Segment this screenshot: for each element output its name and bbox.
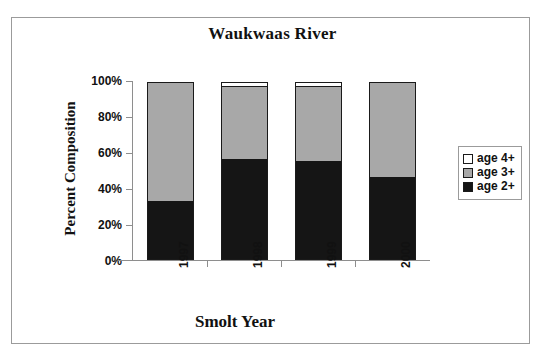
y-tick-label-60: 60% xyxy=(62,147,122,159)
x-axis-line xyxy=(118,260,430,261)
legend-label-age2: age 2+ xyxy=(477,180,515,193)
x-tick-label-1999: 1999 xyxy=(325,208,339,268)
bar-segment-age3 xyxy=(221,86,268,159)
y-tick-label-100: 100% xyxy=(62,75,122,87)
y-tick-label-20: 20% xyxy=(62,219,122,231)
bar-segment-age3 xyxy=(295,86,342,161)
bar-segment-age3 xyxy=(369,82,416,177)
legend-swatch-icon-age4 xyxy=(463,154,473,164)
x-tick-label-1998: 1998 xyxy=(251,208,265,268)
legend-swatch-icon-age3 xyxy=(463,168,473,178)
legend-item-age3[interactable]: age 3+ xyxy=(463,166,515,179)
y-tick-label-0: 0% xyxy=(62,255,122,267)
x-tick-label-2000: 2000 xyxy=(399,208,413,268)
y-axis-tick-labels: 100% 80% 60% 40% 20% 0% xyxy=(60,0,122,362)
x-tick-mark-1 xyxy=(207,261,208,267)
chart-legend: age 4+ age 3+ age 2+ xyxy=(458,146,522,200)
chart-figure: Waukwaas River Percent Composition Smolt… xyxy=(0,0,545,362)
bar-segment-age3 xyxy=(147,82,194,201)
legend-label-age4: age 4+ xyxy=(477,152,515,165)
legend-label-age3: age 3+ xyxy=(477,166,515,179)
legend-swatch-icon-age2 xyxy=(463,182,473,192)
y-tick-label-40: 40% xyxy=(62,183,122,195)
legend-item-age4[interactable]: age 4+ xyxy=(463,152,515,165)
x-tick-mark-2 xyxy=(281,261,282,267)
legend-item-age2[interactable]: age 2+ xyxy=(463,180,515,193)
x-tick-label-1997: 1997 xyxy=(177,208,191,268)
x-tick-mark-3 xyxy=(355,261,356,267)
y-tick-label-80: 80% xyxy=(62,111,122,123)
